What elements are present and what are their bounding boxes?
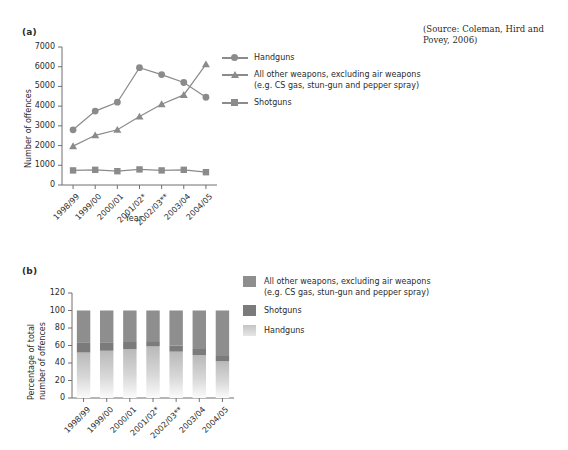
y-tick-label: 120	[0, 288, 65, 297]
bar-segment	[123, 349, 136, 398]
stacked-bar-chart-b	[0, 0, 568, 450]
bar-segment	[193, 355, 206, 398]
bar-segment	[123, 311, 136, 343]
bar-segment	[77, 343, 90, 353]
bar-segment	[100, 343, 113, 351]
bar-segment	[169, 346, 182, 352]
bar-segment	[100, 311, 113, 343]
legend-label: Shotguns	[264, 305, 302, 316]
legend-label: (e.g. CS gas, stun-gun and pepper spray)	[264, 287, 429, 298]
bar-segment	[216, 311, 229, 357]
legend-item-handguns-b: Handguns	[243, 325, 304, 336]
y-axis-title-b: Percentage of total	[27, 324, 36, 400]
legend-swatch-other-weapons	[243, 276, 256, 287]
bar-segment	[77, 311, 90, 343]
y-tick-label: 100	[0, 306, 65, 315]
legend-swatch-handguns	[243, 325, 256, 336]
figure-container: (Source: Coleman, Hird and Povey, 2006) …	[0, 0, 568, 450]
legend-item-other-weapons-b: All other weapons, excluding air weapons	[243, 276, 431, 287]
legend-item-other-weapons-b-sub: (e.g. CS gas, stun-gun and pepper spray)	[264, 287, 429, 298]
y-axis-title-b-second: number of offences	[38, 322, 47, 400]
bar-segment	[216, 361, 229, 398]
bar-segment	[169, 352, 182, 398]
bar-segment	[146, 346, 159, 398]
legend-item-shotguns-b: Shotguns	[243, 305, 302, 316]
bar-segment	[100, 351, 113, 398]
bar-segment	[77, 353, 90, 399]
legend-swatch-shotguns	[243, 305, 256, 316]
bar-segment	[146, 311, 159, 342]
bar-segment	[146, 341, 159, 346]
bar-segment	[169, 311, 182, 346]
y-axis-title-b-line1: Percentage of total	[27, 324, 36, 400]
bars-group-b	[77, 311, 229, 399]
y-axis-title-b-line2: number of offences	[38, 322, 47, 400]
bar-segment	[216, 356, 229, 361]
bar-segment	[193, 349, 206, 355]
legend-label: All other weapons, excluding air weapons	[264, 276, 431, 287]
bar-segment	[193, 311, 206, 350]
legend-label: Handguns	[264, 325, 304, 336]
bar-segment	[123, 342, 136, 349]
